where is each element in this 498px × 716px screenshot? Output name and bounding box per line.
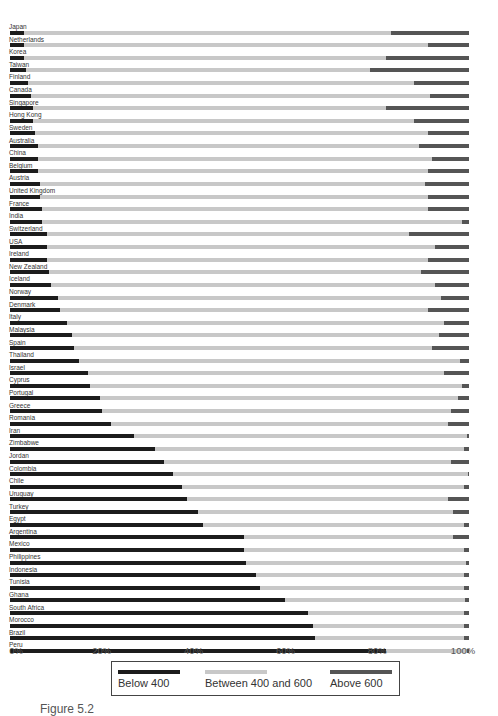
chart-row: Switzerland: [0, 225, 498, 238]
stacked-bar: [10, 434, 469, 438]
bar-segment: [462, 220, 469, 224]
chart-row: Spain: [0, 339, 498, 352]
stacked-bar: [10, 359, 469, 363]
bar-segment: [467, 434, 469, 438]
stacked-bar: [10, 308, 469, 312]
category-label: Philippines: [9, 553, 40, 560]
chart-row: Turkey: [0, 503, 498, 516]
bar-segment: [464, 447, 469, 451]
x-tick-label: 20%: [92, 645, 111, 656]
category-label: Singapore: [9, 99, 39, 106]
bar-segment: [448, 497, 469, 501]
x-tick-label: 60%: [276, 645, 295, 656]
bar-segment: [24, 31, 391, 35]
stacked-bar: [10, 68, 469, 72]
chart-row: USA: [0, 238, 498, 251]
x-tick-label: 0%: [9, 645, 23, 656]
bar-segment: [453, 510, 469, 514]
bar-segment: [391, 31, 469, 35]
bar-segment: [451, 409, 469, 413]
stacked-bar: [10, 510, 469, 514]
category-label: Hong Kong: [9, 111, 42, 118]
category-label: Brazil: [9, 629, 25, 636]
category-label: Sweden: [9, 124, 33, 131]
bar-segment: [260, 586, 464, 590]
stacked-bar: [10, 535, 469, 539]
bar-segment: [155, 447, 465, 451]
category-label: Iran: [9, 427, 20, 434]
chart-row: Thailand: [0, 351, 498, 364]
bar-segment: [10, 561, 246, 565]
stacked-bar: [10, 409, 469, 413]
bar-segment: [10, 346, 74, 350]
chart-row: Finland: [0, 73, 498, 86]
bar-segment: [464, 624, 469, 628]
bar-segment: [453, 535, 469, 539]
bar-segment: [10, 321, 67, 325]
stacked-bar: [10, 182, 469, 186]
bar-segment: [10, 396, 100, 400]
bar-segment: [10, 371, 88, 375]
chart-row: China: [0, 149, 498, 162]
stacked-bar: [10, 548, 469, 552]
bar-segment: [435, 283, 469, 287]
chart-row: Philippines: [0, 553, 498, 566]
category-label: Taiwan: [9, 61, 29, 68]
bar-segment: [464, 548, 469, 552]
chart-row: Chile: [0, 477, 498, 490]
bar-segment: [42, 220, 462, 224]
stacked-bar: [10, 119, 469, 123]
category-label: Chile: [9, 477, 24, 484]
category-label: South Africa: [9, 604, 44, 611]
chart-row: Ireland: [0, 250, 498, 263]
bar-segment: [33, 106, 386, 110]
bar-segment: [386, 56, 469, 60]
stacked-bar: [10, 573, 469, 577]
stacked-bar: [10, 207, 469, 211]
category-label: Netherlands: [9, 36, 44, 43]
bar-segment: [10, 308, 60, 312]
bar-segment: [10, 207, 42, 211]
bar-segment: [74, 346, 432, 350]
category-label: Malaysia: [9, 326, 35, 333]
chart-row: United Kingdom: [0, 187, 498, 200]
chart-row: Jordan: [0, 452, 498, 465]
category-label: Korea: [9, 48, 26, 55]
chart-row: Mexico: [0, 540, 498, 553]
chart-row: South Africa: [0, 604, 498, 617]
stacked-bar: [10, 144, 469, 148]
stacked-bar: [10, 296, 469, 300]
bar-segment: [10, 333, 72, 337]
category-label: Colombia: [9, 465, 36, 472]
bar-segment: [10, 81, 28, 85]
figure-caption: Figure 5.2: [40, 702, 94, 716]
bar-segment: [430, 94, 469, 98]
bar-segment: [88, 371, 444, 375]
category-label: Turkey: [9, 503, 29, 510]
bar-segment: [42, 207, 428, 211]
category-label: Switzerland: [9, 225, 43, 232]
category-label: Zimbabwe: [9, 439, 39, 446]
bar-segment: [49, 270, 421, 274]
bar-segment: [386, 106, 469, 110]
stacked-bar: [10, 106, 469, 110]
bar-segment: [432, 346, 469, 350]
stacked-bar: [10, 485, 469, 489]
stacked-bar: [10, 611, 469, 615]
bar-segment: [370, 68, 469, 72]
category-label: Thailand: [9, 351, 34, 358]
bar-segment: [58, 296, 441, 300]
chart-row: Singapore: [0, 99, 498, 112]
chart-row: Canada: [0, 86, 498, 99]
stacked-bar: [10, 333, 469, 337]
bar-segment: [26, 68, 370, 72]
category-label: China: [9, 149, 26, 156]
category-label: Tunisia: [9, 578, 30, 585]
bar-segment: [10, 182, 40, 186]
stacked-bar: [10, 460, 469, 464]
stacked-bar: [10, 321, 469, 325]
stacked-bar: [10, 472, 469, 476]
stacked-bar: [10, 31, 469, 35]
stacked-bar: [10, 598, 469, 602]
bar-segment: [464, 586, 469, 590]
